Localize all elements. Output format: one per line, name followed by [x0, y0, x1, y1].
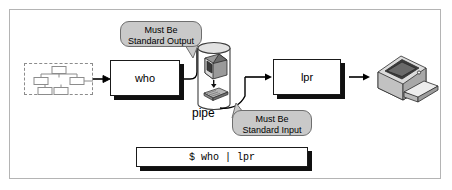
- callout-standard-input-line1: Must Be: [233, 114, 311, 125]
- pipeline-diagram: who lpr pipe Must Be Standard Output Mus…: [0, 0, 452, 190]
- process-label-who: who: [135, 72, 155, 84]
- source-dashed-box: [24, 63, 93, 95]
- pipe-label: pipe: [192, 106, 215, 120]
- callout-standard-output: Must Be Standard Output: [120, 21, 202, 47]
- callout-standard-input: Must Be Standard Input: [232, 110, 312, 136]
- callout-standard-input-line2: Standard Input: [233, 125, 311, 136]
- process-box-who[interactable]: who: [110, 60, 180, 96]
- callout-standard-output-line2: Standard Output: [121, 36, 201, 47]
- arrow-source-to-who: [93, 76, 110, 83]
- process-box-lpr[interactable]: lpr: [273, 59, 341, 95]
- printer-icon: [378, 56, 438, 102]
- monitor-icon: [205, 54, 227, 79]
- arrow-pipe-to-lpr: [245, 74, 272, 81]
- process-label-lpr: lpr: [301, 71, 313, 83]
- terminal-command-text: $ who | lpr: [189, 152, 255, 163]
- terminal-command-bar[interactable]: $ who | lpr: [136, 147, 308, 167]
- arrow-lpr-to-printer: [349, 74, 370, 81]
- callout-standard-output-line1: Must Be: [121, 25, 201, 36]
